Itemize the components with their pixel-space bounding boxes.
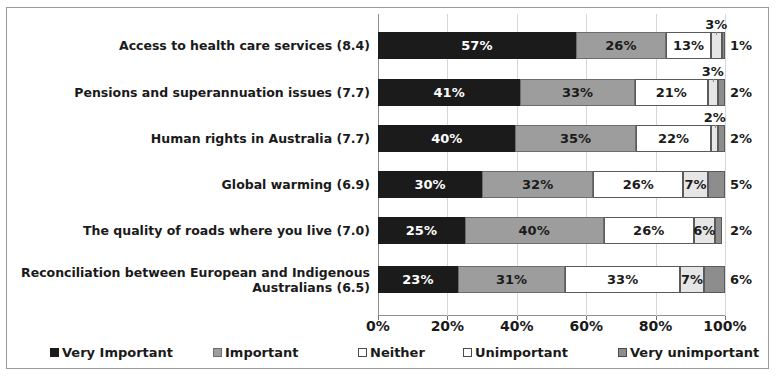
segment-value-label: 25% — [406, 224, 437, 237]
bar-segment[interactable]: 6% — [694, 217, 715, 244]
stacked-bar[interactable]: 40%35%22%2% — [378, 125, 725, 152]
bar-segment[interactable]: 33% — [520, 79, 635, 106]
bar-segment[interactable] — [718, 79, 725, 106]
legend-label: Very Important — [62, 345, 173, 360]
stacked-bar[interactable]: 57%26%13%3% — [378, 32, 725, 59]
bar-segment[interactable] — [715, 217, 722, 244]
bar-segment[interactable]: 33% — [565, 266, 680, 293]
category-label: Pensions and superannuation issues (7.7) — [10, 85, 370, 100]
segment-value-label: 7% — [681, 273, 703, 286]
segment-value-label: 22% — [658, 132, 689, 145]
plot-area: 1%57%26%13%3%2%41%33%21%3%2%40%35%22%2%5… — [378, 14, 725, 316]
bar-row: 2%40%35%22%2% — [378, 125, 725, 152]
x-axis-tick-label: 20% — [431, 318, 465, 334]
gridline — [725, 14, 726, 316]
bar-segment[interactable] — [708, 171, 725, 198]
segment-value-label-outside: 5% — [730, 177, 752, 192]
legend-item[interactable]: Very Important — [50, 345, 173, 360]
legend-swatch-icon — [213, 348, 222, 357]
x-axis-tick-label: 0% — [366, 318, 390, 334]
segment-value-label: 33% — [607, 273, 638, 286]
x-axis-tick-label: 60% — [569, 318, 603, 334]
segment-value-label: 26% — [623, 178, 654, 191]
segment-value-label-above: 3% — [705, 17, 727, 32]
bar-row: 1%57%26%13%3% — [378, 32, 725, 59]
bar-segment[interactable]: 3% — [711, 32, 721, 59]
legend-item[interactable]: Neither — [358, 345, 425, 360]
x-axis-tick-label: 100% — [703, 318, 746, 334]
segment-value-label-outside: 2% — [730, 223, 752, 238]
segment-value-label: 32% — [522, 178, 553, 191]
bar-segment[interactable]: 23% — [378, 266, 458, 293]
category-label: Access to health care services (8.4) — [10, 38, 370, 53]
segment-value-label-above: 2% — [704, 110, 726, 125]
legend-label: Very unimportant — [630, 345, 759, 360]
segment-value-label: 26% — [633, 224, 664, 237]
bar-segment[interactable]: 21% — [635, 79, 708, 106]
stacked-bar[interactable]: 41%33%21%3% — [378, 79, 725, 106]
category-label: Reconciliation between European and Indi… — [10, 265, 370, 295]
stacked-bar[interactable]: 23%31%33%7% — [378, 266, 725, 293]
bar-segment[interactable] — [718, 125, 725, 152]
bar-segment[interactable]: 35% — [515, 125, 635, 152]
segment-value-label-outside: 6% — [730, 272, 752, 287]
legend-swatch-icon — [463, 348, 472, 357]
stacked-bar-chart: Access to health care services (8.4)Pens… — [0, 0, 776, 377]
segment-value-label: 13% — [673, 39, 704, 52]
bar-row: 6%23%31%33%7% — [378, 266, 725, 293]
bar-segment[interactable]: 3% — [708, 79, 718, 106]
legend-item[interactable]: Very unimportant — [618, 345, 759, 360]
category-axis-labels: Access to health care services (8.4)Pens… — [8, 14, 370, 316]
legend-item[interactable]: Unimportant — [463, 345, 568, 360]
bar-segment[interactable]: 57% — [378, 32, 576, 59]
segment-value-label: 35% — [560, 132, 591, 145]
x-axis-line — [378, 315, 726, 316]
bar-segment[interactable]: 30% — [378, 171, 482, 198]
bar-row: 2%25%40%26%6% — [378, 217, 725, 244]
segment-value-label: 7% — [684, 178, 706, 191]
segment-value-label: 23% — [402, 273, 433, 286]
stacked-bar[interactable]: 30%32%26%7% — [378, 171, 725, 198]
x-axis-tick-label: 80% — [639, 318, 673, 334]
bar-segment[interactable]: 26% — [576, 32, 666, 59]
bar-segment[interactable] — [704, 266, 725, 293]
bar-segment[interactable]: 41% — [378, 79, 520, 106]
segment-value-label: 40% — [431, 132, 462, 145]
segment-value-label: 57% — [461, 39, 492, 52]
segment-value-label: 21% — [656, 86, 687, 99]
legend-swatch-icon — [50, 348, 59, 357]
segment-value-label: 30% — [414, 178, 445, 191]
stacked-bar[interactable]: 25%40%26%6% — [378, 217, 725, 244]
bar-segment[interactable]: 26% — [593, 171, 683, 198]
bar-segment[interactable] — [722, 32, 725, 59]
segment-value-label: 31% — [496, 273, 527, 286]
legend-swatch-icon — [358, 348, 367, 357]
segment-value-label: 40% — [519, 224, 550, 237]
segment-value-label-outside: 2% — [730, 131, 752, 146]
bar-row: 5%30%32%26%7% — [378, 171, 725, 198]
bar-segment[interactable]: 40% — [378, 125, 515, 152]
bar-segment[interactable]: 26% — [604, 217, 694, 244]
segment-value-label: 26% — [605, 39, 636, 52]
legend-item[interactable]: Important — [213, 345, 299, 360]
segment-value-label-above: 3% — [702, 64, 724, 79]
bar-segment[interactable]: 32% — [482, 171, 593, 198]
category-label: The quality of roads where you live (7.0… — [10, 223, 370, 238]
bar-segment[interactable]: 2% — [711, 125, 718, 152]
legend-label: Important — [225, 345, 299, 360]
legend-label: Neither — [370, 345, 425, 360]
x-axis-tick-labels: 0%20%40%60%80%100% — [378, 318, 725, 338]
bar-segment[interactable]: 13% — [666, 32, 711, 59]
chart-legend: Very ImportantImportantNeitherUnimportan… — [8, 345, 768, 369]
category-label: Human rights in Australia (7.7) — [10, 131, 370, 146]
x-axis-tick-label: 40% — [500, 318, 534, 334]
bar-segment[interactable]: 40% — [465, 217, 604, 244]
bar-segment[interactable]: 22% — [636, 125, 712, 152]
bar-segment[interactable]: 7% — [683, 171, 707, 198]
bar-segment[interactable]: 31% — [458, 266, 566, 293]
bar-segment[interactable]: 7% — [680, 266, 704, 293]
legend-label: Unimportant — [475, 345, 568, 360]
segment-value-label: 33% — [562, 86, 593, 99]
category-label: Global warming (6.9) — [10, 177, 370, 192]
bar-segment[interactable]: 25% — [378, 217, 465, 244]
